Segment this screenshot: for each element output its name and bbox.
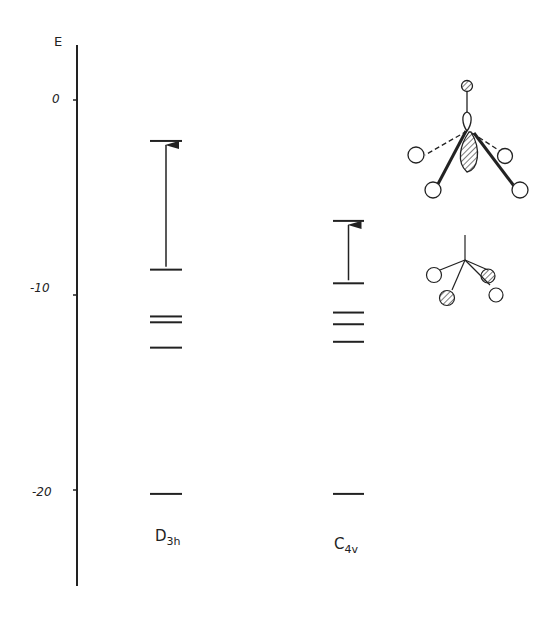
transition-arrows xyxy=(166,145,349,280)
c4v-main: C xyxy=(334,535,344,553)
d3h-main: D xyxy=(155,527,167,545)
axis-label-e: E xyxy=(54,34,62,49)
energy-level-diagram: E 0 -10 -20 D3h C4v xyxy=(0,0,553,619)
c4v-subscript: 4v xyxy=(344,543,358,556)
tick-label-0: 0 xyxy=(52,92,60,106)
column-label-d3h: D3h xyxy=(155,527,181,545)
diagram-canvas xyxy=(0,0,553,619)
column-label-c4v: C4v xyxy=(334,535,358,553)
tick-label-minus-20: -20 xyxy=(32,485,52,499)
tick-label-minus-10: -10 xyxy=(30,281,50,295)
orbital-sketch-d3h xyxy=(427,235,504,306)
orbital-sketch-c4v xyxy=(408,81,528,199)
energy-levels xyxy=(150,141,364,494)
d3h-subscript: 3h xyxy=(167,535,181,548)
